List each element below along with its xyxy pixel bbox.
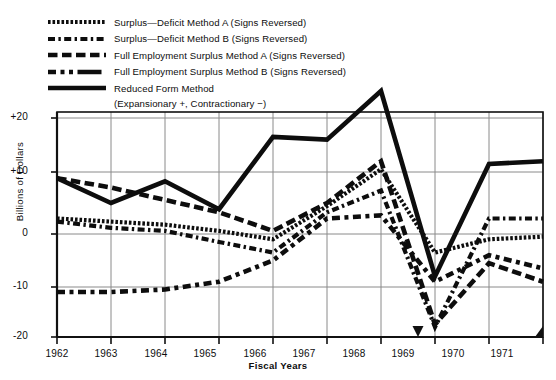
- axis-arrow-marker: [413, 326, 424, 337]
- axis-arrow-marker: [535, 326, 543, 337]
- chart-figure: Surplus—Deficit Method A (Signs Reversed…: [0, 0, 556, 380]
- series-line: [57, 191, 543, 327]
- series-line: [57, 91, 543, 276]
- plot-area: [0, 0, 556, 380]
